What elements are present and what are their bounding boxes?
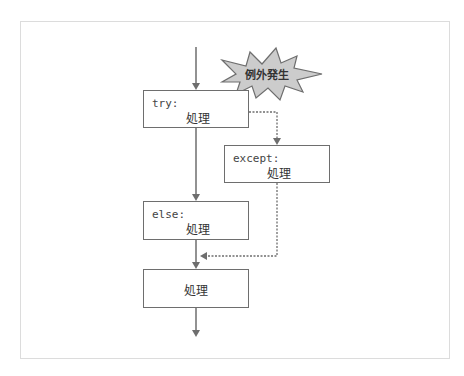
exit-arrow [192,308,200,337]
exception-path-arrow [249,112,281,145]
except-box: except: 処理 [224,145,330,183]
connector-layer [0,0,464,376]
except-body: 処理 [267,164,291,181]
else-body: 処理 [186,220,210,237]
else-keyword: else: [152,208,185,221]
final-box: 処理 [143,269,249,308]
else-to-final-arrow [192,240,200,269]
else-box: else: 処理 [143,201,249,240]
try-body: 処理 [186,109,210,126]
entry-arrow [192,47,200,90]
try-to-else-arrow [192,128,200,201]
exception-label: 例外発生 [245,66,289,82]
try-keyword: try: [152,97,179,110]
final-body: 処理 [184,281,208,298]
try-box: try: 処理 [143,90,249,128]
